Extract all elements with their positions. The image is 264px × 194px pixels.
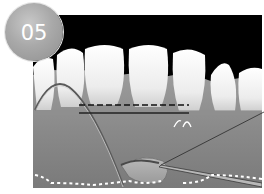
step-badge: 05 xyxy=(5,3,63,61)
step-number: 05 xyxy=(21,21,48,45)
